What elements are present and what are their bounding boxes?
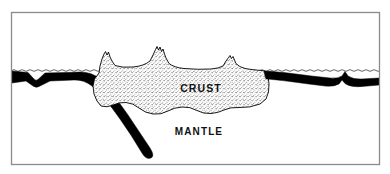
cross-section-diagram: CRUST MANTLE — [0, 0, 390, 174]
figure-root: CRUST MANTLE — [0, 0, 390, 174]
label-crust: CRUST — [180, 82, 222, 94]
label-mantle: MANTLE — [175, 126, 223, 137]
